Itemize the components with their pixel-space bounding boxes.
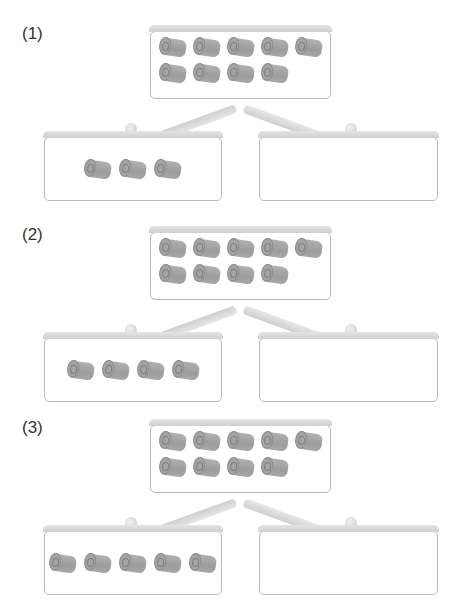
toilet-paper-roll-icon bbox=[260, 430, 291, 454]
whole-box bbox=[150, 232, 331, 300]
roll-row bbox=[45, 361, 221, 381]
toilet-paper-roll-icon bbox=[192, 263, 223, 287]
toilet-paper-roll-icon bbox=[158, 62, 189, 86]
toilet-paper-roll-icon bbox=[260, 263, 291, 287]
roll-row bbox=[159, 432, 323, 452]
problem-2: (2) bbox=[0, 225, 463, 420]
toilet-paper-roll-icon bbox=[226, 237, 257, 261]
toilet-paper-roll-icon bbox=[226, 36, 257, 60]
roll-group bbox=[45, 339, 221, 401]
roll-row bbox=[159, 239, 323, 259]
toilet-paper-roll-icon bbox=[226, 263, 257, 287]
toilet-paper-roll-icon bbox=[158, 263, 189, 287]
part-box-left bbox=[44, 338, 222, 402]
roll-group bbox=[151, 32, 330, 98]
toilet-paper-roll-icon bbox=[294, 430, 325, 454]
toilet-paper-roll-icon bbox=[260, 237, 291, 261]
toilet-paper-roll-icon bbox=[118, 158, 149, 182]
toilet-paper-roll-icon bbox=[158, 456, 189, 480]
roll-group bbox=[151, 233, 330, 299]
toilet-paper-roll-icon bbox=[158, 36, 189, 60]
toilet-paper-roll-icon bbox=[100, 359, 131, 383]
toilet-paper-roll-icon bbox=[158, 237, 189, 261]
toilet-paper-roll-icon bbox=[226, 456, 257, 480]
toilet-paper-roll-icon bbox=[192, 62, 223, 86]
problem-1: (1) bbox=[0, 24, 463, 219]
toilet-paper-roll-icon bbox=[192, 237, 223, 261]
toilet-paper-roll-icon bbox=[65, 359, 96, 383]
toilet-paper-roll-icon bbox=[260, 36, 291, 60]
toilet-paper-roll-icon bbox=[135, 359, 166, 383]
part-box-right-answer[interactable] bbox=[259, 137, 438, 201]
roll-group bbox=[151, 426, 330, 492]
part-box-left bbox=[44, 531, 222, 595]
toilet-paper-roll-icon bbox=[153, 552, 184, 576]
whole-box bbox=[150, 31, 331, 99]
toilet-paper-roll-icon bbox=[118, 552, 149, 576]
toilet-paper-roll-icon bbox=[48, 552, 79, 576]
problem-3: (3) bbox=[0, 418, 463, 613]
toilet-paper-roll-icon bbox=[83, 552, 114, 576]
roll-row bbox=[45, 554, 221, 574]
roll-row bbox=[159, 64, 289, 84]
toilet-paper-roll-icon bbox=[226, 430, 257, 454]
problem-label: (2) bbox=[22, 225, 43, 245]
toilet-paper-roll-icon bbox=[158, 430, 189, 454]
toilet-paper-roll-icon bbox=[260, 62, 291, 86]
problem-label: (3) bbox=[22, 418, 43, 438]
toilet-paper-roll-icon bbox=[188, 552, 219, 576]
toilet-paper-roll-icon bbox=[192, 430, 223, 454]
problem-label: (1) bbox=[22, 24, 43, 44]
toilet-paper-roll-icon bbox=[260, 456, 291, 480]
toilet-paper-roll-icon bbox=[192, 36, 223, 60]
toilet-paper-roll-icon bbox=[294, 237, 325, 261]
roll-row bbox=[45, 160, 221, 180]
part-box-right-answer[interactable] bbox=[259, 531, 438, 595]
roll-row bbox=[159, 458, 289, 478]
roll-row bbox=[159, 38, 323, 58]
toilet-paper-roll-icon bbox=[83, 158, 114, 182]
toilet-paper-roll-icon bbox=[153, 158, 184, 182]
part-box-right-answer[interactable] bbox=[259, 338, 438, 402]
whole-box bbox=[150, 425, 331, 493]
toilet-paper-roll-icon bbox=[226, 62, 257, 86]
roll-group bbox=[45, 532, 221, 594]
toilet-paper-roll-icon bbox=[170, 359, 201, 383]
roll-group bbox=[45, 138, 221, 200]
toilet-paper-roll-icon bbox=[192, 456, 223, 480]
roll-row bbox=[159, 265, 289, 285]
toilet-paper-roll-icon bbox=[294, 36, 325, 60]
part-box-left bbox=[44, 137, 222, 201]
